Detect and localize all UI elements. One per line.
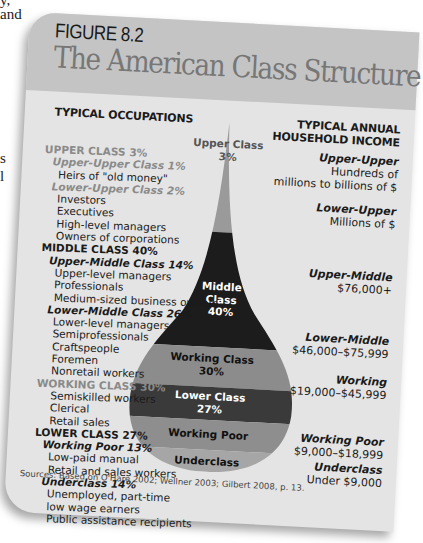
- book-text-fragment: l: [0, 168, 4, 185]
- income-lower-upper: Lower-Upper Millions of $: [315, 201, 396, 231]
- book-text-fragment: s: [0, 150, 6, 167]
- income-lower-middle: Lower-Middle $46,000–$75,999: [292, 330, 390, 361]
- figure-card: FIGURE 8.2 The American Class Structure …: [4, 12, 420, 532]
- income-upper-upper: Upper-Upper Hundreds of millions to bill…: [273, 149, 399, 194]
- income-underclass: Underclass Under $9,000: [306, 460, 383, 490]
- book-text-fragment: and: [0, 6, 22, 23]
- income-working-poor: Working Poor $9,000–$18,999: [294, 431, 385, 462]
- income-upper-middle: Upper-Middle $76,000+: [308, 267, 393, 297]
- income-working: Working $19,000–$45,999: [290, 371, 388, 402]
